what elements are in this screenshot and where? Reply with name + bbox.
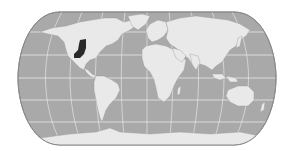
world-map [0, 0, 290, 151]
